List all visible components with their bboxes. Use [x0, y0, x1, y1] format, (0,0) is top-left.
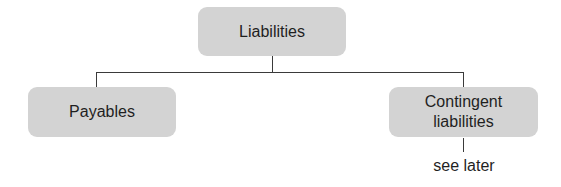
connector-note-vertical [463, 138, 464, 152]
node-liabilities-label: Liabilities [239, 22, 305, 42]
connector-root-vertical [272, 56, 273, 72]
node-contingent-liabilities-label: Contingent liabilities [425, 92, 502, 132]
node-contingent-liabilities: Contingent liabilities [389, 87, 538, 137]
connector-contingent-vertical [463, 72, 464, 87]
note-see-later: see later [414, 156, 514, 176]
node-liabilities: Liabilities [198, 7, 346, 56]
node-payables: Payables [28, 87, 176, 137]
connector-horizontal-bar [96, 72, 464, 73]
connector-payables-vertical [96, 72, 97, 87]
node-payables-label: Payables [69, 102, 135, 122]
